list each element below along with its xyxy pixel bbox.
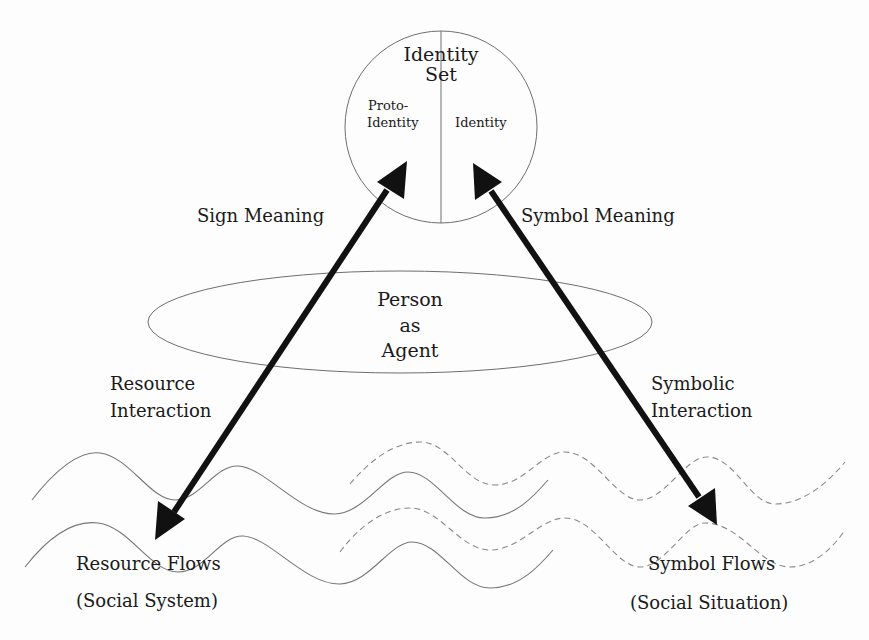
arrow-up-icon <box>473 163 502 200</box>
sign-meaning-label: Sign Meaning <box>197 205 324 226</box>
proto-identity-label-line1: Proto- <box>368 98 408 113</box>
arrow-down-icon <box>688 488 717 525</box>
symbol-flows-subtitle: (Social Situation) <box>630 592 788 613</box>
identity-set-title-line1: Identity <box>403 43 478 65</box>
person-label-line1: Person <box>377 288 443 310</box>
person-label-line2: as <box>399 314 420 336</box>
identity-theory-diagram: Identity Set Proto- Identity Identity Pe… <box>0 0 869 640</box>
resource-interaction-label-line1: Resource <box>110 373 195 394</box>
symbol-meaning-label: Symbol Meaning <box>521 205 675 226</box>
person-label-line3: Agent <box>381 339 439 361</box>
symbolic-interaction-label-line2: Interaction <box>651 400 753 421</box>
person-as-agent-ellipse: Person as Agent <box>148 271 652 373</box>
proto-identity-label-line2: Identity <box>367 115 419 130</box>
resource-wave-upper <box>32 453 548 518</box>
symbol-wave-upper <box>350 442 845 504</box>
resource-flows-title: Resource Flows <box>76 553 221 574</box>
symbol-flow-waves <box>340 442 845 567</box>
right-arrow-shaft <box>491 191 699 497</box>
symbolic-interaction-label-line1: Symbolic <box>651 373 735 394</box>
left-arrow-shaft <box>174 190 387 512</box>
symbol-flows-title: Symbol Flows <box>648 553 775 574</box>
resource-flows-subtitle: (Social System) <box>76 590 218 611</box>
identity-label: Identity <box>455 115 507 130</box>
identity-set-circle: Identity Set Proto- Identity Identity <box>345 31 537 223</box>
identity-set-title-line2: Set <box>425 63 457 85</box>
resource-interaction-label-line2: Interaction <box>110 400 212 421</box>
